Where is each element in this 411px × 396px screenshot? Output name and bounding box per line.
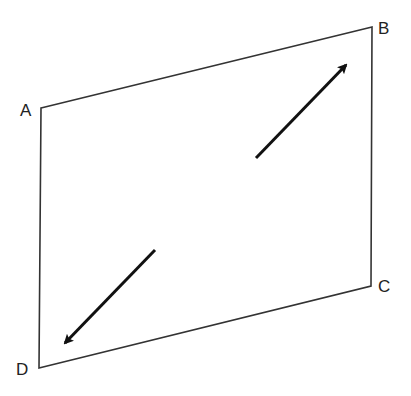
arrow-toward-b: [256, 65, 346, 158]
vertex-label-b: B: [378, 19, 389, 38]
vertex-label-a: A: [20, 101, 32, 120]
vertex-label-d: D: [16, 360, 28, 379]
vertex-label-c: C: [378, 277, 390, 296]
diagram-canvas: A B C D: [0, 0, 411, 396]
arrow-toward-d: [65, 250, 155, 343]
